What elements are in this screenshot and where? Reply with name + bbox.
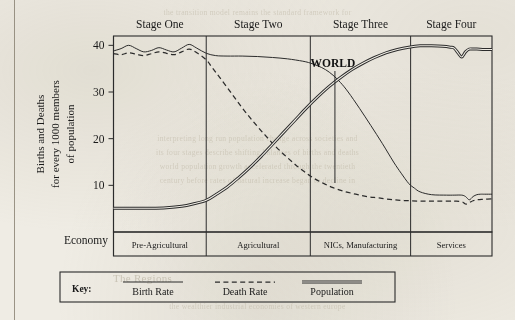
y-axis-title: Births and Deathsfor every 1000 memberso… — [34, 80, 76, 188]
economy-cell: Services — [437, 240, 467, 250]
stage-title: Stage Two — [234, 18, 283, 31]
series-population — [114, 46, 493, 209]
legend: Key:Birth RateDeath RatePopulation — [60, 272, 395, 302]
stage-title: Stage Three — [333, 18, 388, 31]
economy-cell: NICs, Manufacturing — [324, 240, 398, 250]
y-axis-title-line: Births and Deaths — [34, 95, 46, 174]
legend-label: Population — [310, 286, 353, 297]
legend-item-birth-rate: Birth Rate — [123, 282, 183, 297]
stage-title: Stage One — [136, 18, 184, 31]
figure-page: the transition model remains the standar… — [0, 0, 515, 320]
y-axis-ticks: 10203040 — [93, 39, 114, 191]
stage-title: Stage Four — [426, 18, 476, 31]
y-tick-label: 40 — [93, 39, 105, 51]
demographic-transition-chart: Stage OneStage TwoStage ThreeStage Four … — [0, 0, 515, 320]
series-birth-rate — [114, 44, 493, 199]
data-series-group — [114, 44, 493, 208]
world-annotation: WORLD — [311, 57, 356, 183]
y-tick-label: 30 — [93, 86, 105, 98]
economy-cell: Agricultural — [237, 240, 280, 250]
stage-divider-lines — [206, 36, 410, 232]
legend-label: Birth Rate — [132, 286, 174, 297]
legend-label: Death Rate — [223, 286, 268, 297]
plot-frame — [114, 36, 493, 232]
world-annotation-label: WORLD — [311, 57, 356, 69]
y-tick-label: 20 — [93, 133, 105, 145]
y-axis-title-line: for every 1000 members — [49, 80, 61, 188]
y-tick-label: 10 — [93, 179, 105, 191]
legend-item-population: Population — [302, 282, 362, 297]
legend-key-label: Key: — [72, 284, 92, 294]
stage-title-group: Stage OneStage TwoStage ThreeStage Four — [136, 18, 476, 31]
series-death-rate — [114, 49, 493, 204]
legend-item-death-rate: Death Rate — [215, 282, 275, 297]
y-axis-title-line: of population — [64, 104, 76, 163]
economy-row-label: Economy — [64, 234, 108, 247]
economy-cell: Pre-Agricultural — [132, 240, 189, 250]
economy-row: Pre-AgriculturalAgriculturalNICs, Manufa… — [114, 232, 493, 256]
